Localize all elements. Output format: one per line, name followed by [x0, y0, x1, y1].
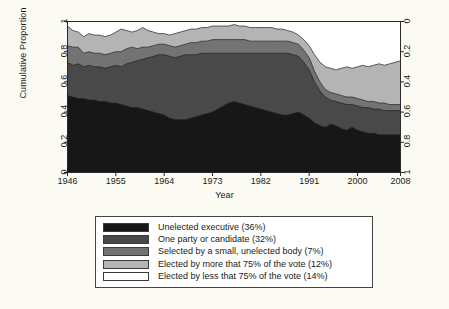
y-tick-label-left: 1: [59, 9, 69, 33]
y-tick-label-right: 1: [402, 160, 412, 184]
legend-swatch: [103, 272, 149, 281]
x-tick-label: 1991: [299, 176, 319, 186]
legend-label: One party or candidate (32%): [158, 235, 276, 244]
chart-legend: Unelected executive (36%)One party or ca…: [95, 216, 373, 288]
x-tick-label: 2000: [348, 176, 368, 186]
x-tick-label: 1964: [154, 176, 174, 186]
legend-label: Selected by a small, unelected body (7%): [158, 247, 324, 256]
legend-item: One party or candidate (32%): [103, 233, 366, 245]
x-axis-title: Year: [0, 190, 449, 200]
legend-swatch: [103, 223, 149, 232]
legend-item: Elected by less that 75% of the vote (14…: [103, 271, 366, 283]
y-tick-label-left: 0.2: [59, 129, 69, 153]
y-tick-label-right: 0.2: [402, 39, 412, 63]
legend-item: Unelected executive (36%): [103, 221, 366, 233]
figure-container: Cumulative Proportion Year 1946195519641…: [0, 0, 449, 309]
x-tick-label: 1982: [251, 176, 271, 186]
legend-swatch: [103, 235, 149, 244]
x-tick-label: 1973: [203, 176, 223, 186]
y-tick-label-left: 0: [59, 160, 69, 184]
legend-label: Elected by less that 75% of the vote (14…: [158, 272, 328, 281]
y-tick-label-right: 0.4: [402, 69, 412, 93]
y-tick-label-left: 0.6: [59, 69, 69, 93]
legend-label: Unelected executive (36%): [158, 223, 266, 232]
legend-item: Elected by more that 75% of the vote (12…: [103, 258, 366, 270]
legend-item: Selected by a small, unelected body (7%): [103, 246, 366, 258]
legend-swatch: [103, 260, 149, 269]
y-tick-label-left: 0.8: [59, 39, 69, 63]
legend-swatch: [103, 247, 149, 256]
legend-label: Elected by more that 75% of the vote (12…: [158, 260, 332, 269]
y-tick-label-right: 0: [402, 9, 412, 33]
y-tick-label-left: 0.4: [59, 99, 69, 123]
x-tick-label: 1955: [106, 176, 126, 186]
y-tick-label-right: 0.8: [402, 129, 412, 153]
y-tick-label-right: 0.6: [402, 99, 412, 123]
y-axis-title: Cumulative Proportion: [18, 0, 28, 118]
